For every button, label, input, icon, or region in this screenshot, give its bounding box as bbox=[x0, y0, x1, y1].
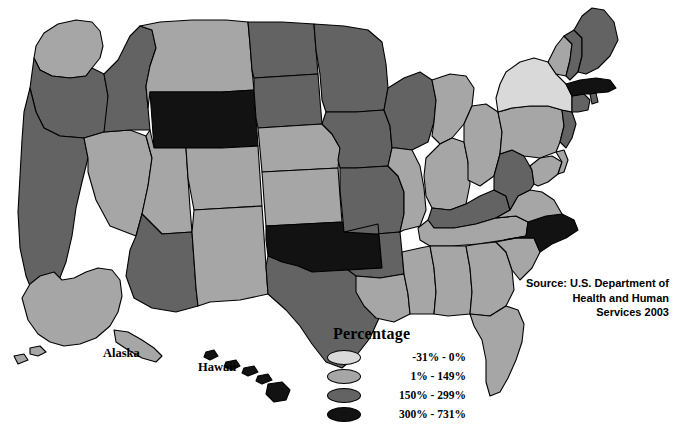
source-line-3: Services 2003 bbox=[503, 305, 669, 320]
state-MO bbox=[340, 166, 404, 234]
state-ND bbox=[248, 22, 318, 78]
map-figure: Alaska Hawaii Source: U.S. Department of… bbox=[0, 0, 673, 427]
legend-label-bin2: 1% - 149% bbox=[370, 370, 466, 382]
legend-swatch-bin2 bbox=[327, 369, 361, 384]
legend-swatch-bin4 bbox=[327, 407, 361, 422]
legend-item: 150% - 299% bbox=[327, 386, 466, 404]
state-shapes bbox=[14, 8, 618, 402]
legend-label-bin1: -31% - 0% bbox=[370, 351, 466, 363]
alaska-label: Alaska bbox=[103, 346, 140, 361]
legend-label-bin4: 300% - 731% bbox=[370, 408, 466, 420]
source-note: Source: U.S. Department of Health and Hu… bbox=[503, 276, 669, 320]
state-AL bbox=[430, 246, 472, 316]
state-HI-island-3 bbox=[242, 366, 258, 376]
state-NE bbox=[258, 124, 340, 172]
legend-title: Percentage bbox=[333, 325, 466, 343]
state-KS bbox=[262, 168, 342, 226]
legend-item: -31% - 0% bbox=[327, 348, 466, 366]
map-legend: Percentage -31% - 0% 1% - 149% 150% - 29… bbox=[327, 325, 466, 424]
state-IN bbox=[424, 138, 470, 210]
state-WY bbox=[150, 90, 258, 148]
state-WI bbox=[384, 72, 436, 150]
state-MD bbox=[530, 156, 562, 186]
state-FL bbox=[470, 306, 524, 396]
state-CT bbox=[572, 94, 590, 112]
state-PA bbox=[498, 106, 564, 158]
legend-item: 300% - 731% bbox=[327, 405, 466, 423]
legend-swatch-bin3 bbox=[327, 388, 361, 403]
state-AK-island-a bbox=[30, 346, 46, 356]
state-MA bbox=[566, 78, 616, 96]
state-NM bbox=[192, 206, 268, 306]
state-HI-island-5 bbox=[266, 382, 290, 402]
source-line-1: Source: U.S. Department of bbox=[503, 276, 669, 291]
state-RI bbox=[590, 93, 598, 104]
hawaii-label: Hawaii bbox=[198, 360, 236, 375]
source-line-2: Health and Human bbox=[503, 291, 669, 306]
legend-item: 1% - 149% bbox=[327, 367, 466, 385]
legend-label-bin3: 150% - 299% bbox=[370, 389, 466, 401]
state-HI-island-1 bbox=[204, 350, 218, 360]
state-AK-island-b bbox=[14, 354, 28, 364]
state-AK bbox=[22, 268, 122, 346]
state-MN bbox=[314, 24, 388, 112]
state-CO bbox=[186, 146, 262, 210]
state-SD bbox=[254, 74, 322, 128]
state-HI-island-4 bbox=[256, 374, 272, 384]
legend-swatch-bin1 bbox=[327, 350, 361, 365]
